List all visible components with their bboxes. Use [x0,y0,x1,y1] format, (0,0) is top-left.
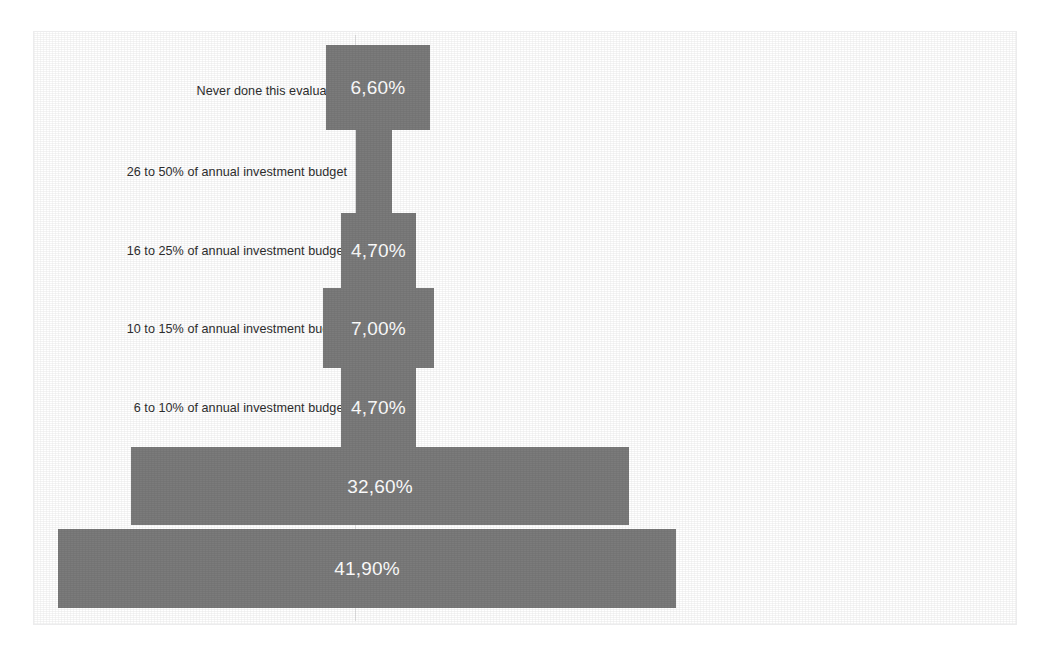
bar: 4,70% [341,368,416,447]
bar-value-label: 4,70% [351,398,406,417]
chart-figure-frame: Never done this evaluation26 to 50% of a… [33,31,1017,625]
bar: 6,60% [326,45,430,130]
bar-value-label: 4,70% [351,241,406,260]
chart-plot-area: Never done this evaluation26 to 50% of a… [34,32,1016,624]
bar-value-label: 7,00% [351,319,406,338]
bar: 41,90% [58,529,676,608]
bar-value-label: 41,90% [334,559,400,578]
bar: 7,00% [323,288,434,368]
bar: 4,70% [341,213,416,288]
bar [356,130,392,213]
bar-value-label: 6,60% [351,78,406,97]
bar-series: 6,60%4,70%7,00%4,70%32,60%41,90% [34,32,1016,624]
bar-value-label: 32,60% [347,477,413,496]
bar: 32,60% [131,447,629,525]
